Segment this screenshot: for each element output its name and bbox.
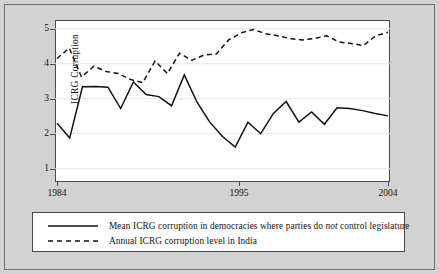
y-axis-label: ICRG Corruption: [70, 9, 80, 129]
series-line-india: [57, 29, 388, 82]
legend-item-mean-democracies: Mean ICRG corruption in democracies wher…: [47, 219, 409, 233]
y-tick-mark: [50, 64, 55, 65]
y-tick-label: 1: [44, 164, 49, 174]
legend-key-dashed-line: [47, 236, 99, 246]
x-tick-label: 1995: [230, 189, 249, 199]
plot-wrapper: ICRG Corruption 12345 198419952004: [55, 20, 390, 182]
y-tick-label: 3: [44, 94, 49, 104]
x-tick-label: 1984: [48, 189, 67, 199]
legend-label-india: Annual ICRG corruption level in India: [109, 236, 257, 246]
x-tick-mark: [57, 182, 58, 186]
legend: Mean ICRG corruption in democracies wher…: [32, 212, 405, 252]
legend-key-solid-line: [47, 221, 99, 231]
legend-label-mean-democracies: Mean ICRG corruption in democracies wher…: [109, 221, 409, 231]
plot-canvas: [55, 20, 390, 182]
y-tick-mark: [50, 29, 55, 30]
x-tick-mark: [388, 182, 389, 186]
series-line-mean-democracies: [57, 75, 388, 147]
x-tick-mark: [239, 182, 240, 186]
y-tick-mark: [50, 134, 55, 135]
chart-screenshot: ICRG Corruption 12345 198419952004 Mean …: [0, 0, 439, 274]
legend-item-india: Annual ICRG corruption level in India: [47, 234, 257, 248]
y-tick-mark: [50, 169, 55, 170]
y-tick-label: 4: [44, 59, 49, 69]
y-tick-mark: [50, 99, 55, 100]
y-tick-label: 2: [44, 129, 49, 139]
y-tick-label: 5: [44, 24, 49, 34]
x-tick-label: 2004: [379, 189, 398, 199]
